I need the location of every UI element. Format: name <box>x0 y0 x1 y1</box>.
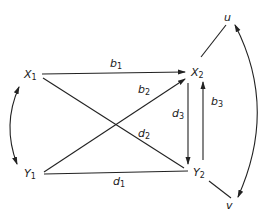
node-x1: X1 <box>24 69 37 82</box>
label-b3: b3 <box>211 96 223 109</box>
label-d2: d2 <box>138 128 150 141</box>
label-b2: b2 <box>138 84 150 97</box>
edge-x1-y2 <box>43 78 184 168</box>
label-d3: d3 <box>172 108 184 121</box>
edge-y2-v <box>209 181 231 198</box>
node-y1: Y1 <box>24 168 36 181</box>
node-u: u <box>224 12 231 23</box>
path-diagram <box>0 0 265 217</box>
edge-y1-x2 <box>44 79 185 172</box>
label-b1: b1 <box>110 58 122 71</box>
edge-u-v-covariance <box>235 25 257 197</box>
node-x2: X2 <box>191 67 204 80</box>
edge-x1-y1-covariance <box>10 87 19 164</box>
edge-x1-x2 <box>42 72 185 74</box>
label-d1: d1 <box>113 176 125 189</box>
node-v: v <box>226 200 233 211</box>
edge-x2-u <box>201 25 226 57</box>
edge-y1-y2 <box>44 171 188 174</box>
node-y2: Y2 <box>193 167 205 180</box>
